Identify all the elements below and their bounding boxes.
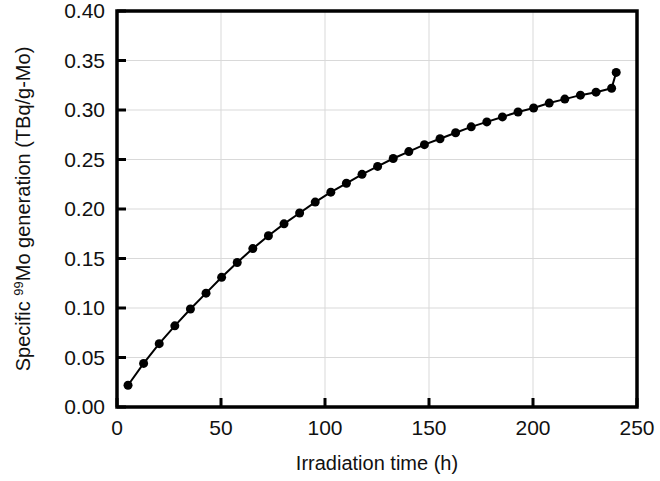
y-axis-tick-labels: 0.000.050.100.150.200.250.300.350.40 bbox=[64, 0, 105, 418]
data-point-marker bbox=[576, 91, 585, 100]
y-axis-tick-label: 0.40 bbox=[64, 0, 105, 22]
data-point-marker bbox=[202, 289, 211, 298]
y-axis-tick-label: 0.35 bbox=[64, 49, 105, 72]
data-point-marker bbox=[451, 128, 460, 137]
data-point-marker bbox=[560, 95, 569, 104]
data-point-marker bbox=[155, 339, 164, 348]
data-point-marker bbox=[217, 273, 226, 282]
x-axis-tick-label: 150 bbox=[411, 416, 446, 439]
y-axis-tick-label: 0.15 bbox=[64, 247, 105, 270]
y-axis-tick-label: 0.30 bbox=[64, 98, 105, 121]
data-point-marker bbox=[592, 88, 601, 97]
data-point-marker bbox=[607, 84, 616, 93]
data-point-marker bbox=[529, 104, 538, 113]
data-point-marker bbox=[342, 179, 351, 188]
x-axis-tick-label: 250 bbox=[619, 416, 654, 439]
data-point-marker bbox=[124, 381, 133, 390]
y-axis-title-post: Mo generation (TBq/g-Mo) bbox=[12, 47, 34, 282]
specific-mo99-generation-chart: 050100150200250 0.000.050.100.150.200.25… bbox=[0, 0, 660, 481]
x-axis-tick-label: 50 bbox=[209, 416, 232, 439]
y-axis-tick-label: 0.10 bbox=[64, 296, 105, 319]
y-axis-title: Specific 99Mo generation (TBq/g-Mo) bbox=[11, 47, 34, 372]
data-point-marker bbox=[280, 219, 289, 228]
data-point-marker bbox=[139, 359, 148, 368]
data-point-marker bbox=[482, 117, 491, 126]
data-point-marker bbox=[248, 244, 257, 253]
data-point-marker bbox=[264, 231, 273, 240]
data-point-marker bbox=[514, 107, 523, 116]
data-point-marker bbox=[404, 147, 413, 156]
data-point-marker bbox=[295, 208, 304, 217]
data-point-marker bbox=[186, 304, 195, 313]
data-point-marker bbox=[311, 198, 320, 207]
x-axis-tick-label: 200 bbox=[515, 416, 550, 439]
x-axis-tick-label: 100 bbox=[307, 416, 342, 439]
data-point-marker bbox=[233, 258, 242, 267]
chart-figure: 050100150200250 0.000.050.100.150.200.25… bbox=[0, 0, 660, 481]
y-axis-tick-label: 0.05 bbox=[64, 346, 105, 369]
data-point-marker bbox=[420, 140, 429, 149]
data-point-marker bbox=[373, 162, 382, 171]
x-axis-tick-label: 0 bbox=[111, 416, 123, 439]
data-point-marker bbox=[170, 321, 179, 330]
y-axis-title-superscript: 99 bbox=[11, 281, 26, 295]
data-point-marker bbox=[358, 170, 367, 179]
y-axis-tick-label: 0.25 bbox=[64, 148, 105, 171]
data-point-marker bbox=[612, 68, 621, 77]
data-point-marker bbox=[326, 188, 335, 197]
x-axis-title: Irradiation time (h) bbox=[296, 452, 458, 474]
data-point-marker bbox=[498, 112, 507, 121]
data-point-marker bbox=[467, 122, 476, 131]
y-axis-tick-label: 0.00 bbox=[64, 395, 105, 418]
data-point-marker bbox=[389, 154, 398, 163]
y-axis-title-pre: Specific bbox=[12, 296, 34, 372]
y-axis-tick-label: 0.20 bbox=[64, 197, 105, 220]
data-point-marker bbox=[545, 99, 554, 108]
data-point-marker bbox=[436, 134, 445, 143]
